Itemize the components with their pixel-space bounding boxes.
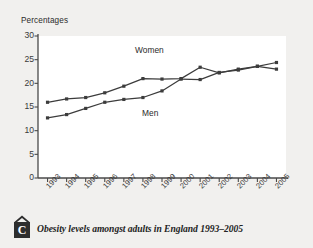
x-tick-label: 2003 <box>235 172 254 191</box>
x-tick-label: 2004 <box>254 172 273 191</box>
figure-caption: C Obesity levels amongst adults in Engla… <box>13 213 303 243</box>
series-label-men: Men <box>142 108 158 118</box>
caption-badge-letter: C <box>14 222 30 238</box>
x-tick-label: 1998 <box>139 172 158 191</box>
x-tick-label: 2001 <box>197 172 216 191</box>
x-axis-tick-labels: 1993199419951996199719981999200020012002… <box>0 0 313 248</box>
x-tick-label: 1996 <box>101 172 120 191</box>
x-tick-label: 2002 <box>216 172 235 191</box>
x-tick-label: 2005 <box>273 172 292 191</box>
caption-badge: C <box>13 215 31 241</box>
x-tick-label: 2000 <box>178 172 197 191</box>
series-label-women: Women <box>135 45 164 55</box>
x-tick-label: 1993 <box>44 172 63 191</box>
x-tick-label: 1995 <box>82 172 101 191</box>
x-tick-label: 1994 <box>63 172 82 191</box>
caption-text: Obesity levels amongst adults in England… <box>37 223 243 234</box>
x-tick-label: 1999 <box>159 172 178 191</box>
x-tick-label: 1997 <box>120 172 139 191</box>
figure-container: Percentages 051015202530 199319941995199… <box>0 0 313 248</box>
